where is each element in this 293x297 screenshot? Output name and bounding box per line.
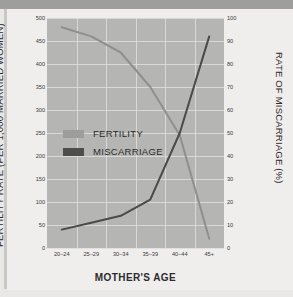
y-axis-right-tick-label: 80 [227, 61, 249, 67]
y-axis-right-tick-label: 50 [227, 130, 249, 136]
y-axis-left-tick-label: 400 [23, 61, 45, 67]
y-axis-left-tick-label: 300 [23, 107, 45, 113]
y-axis-left-tick-label: 250 [23, 130, 45, 136]
y-axis-right-tick-label: 70 [227, 84, 249, 90]
y-axis-left-tick-label: 100 [23, 199, 45, 205]
gridline-horizontal [47, 248, 224, 249]
legend-swatch-miscarriage [63, 148, 84, 156]
y-axis-right-ticks: 0102030405060708090100 [227, 18, 252, 248]
legend-item-miscarriage: MISCARRIAGE [63, 146, 163, 157]
y-axis-right-tick-label: 100 [227, 15, 249, 21]
legend-label-miscarriage: MISCARRIAGE [93, 146, 163, 157]
y-axis-right-tick-label: 0 [227, 245, 249, 251]
y-axis-right-tick-label: 10 [227, 222, 249, 228]
x-axis-ticks: 20–2425–2930–3435–3940–4445+ [47, 251, 224, 263]
y-axis-left-ticks: 050100150200250300350400450500 [20, 18, 45, 248]
y-axis-left-title: FERTILITY RATE (PER 1,000 MARRIED WOMEN) [0, 0, 5, 20]
x-axis-tick-label: 45+ [192, 251, 226, 257]
y-axis-left-tick-label: 50 [23, 222, 45, 228]
y-axis-left-tick-label: 0 [23, 245, 45, 251]
legend-label-fertility: FERTILITY [93, 128, 143, 139]
chart-legend: FERTILITY MISCARRIAGE [63, 128, 163, 164]
y-axis-left-tick-label: 150 [23, 176, 45, 182]
y-axis-right-tick-label: 40 [227, 153, 249, 159]
y-axis-right-tick-label: 20 [227, 199, 249, 205]
y-axis-left-tick-label: 200 [23, 153, 45, 159]
dual-axis-line-chart: FERTILITY RATE (PER 1,000 MARRIED WOMEN)… [0, 0, 293, 297]
legend-item-fertility: FERTILITY [63, 128, 163, 139]
y-axis-left-tick-label: 350 [23, 84, 45, 90]
legend-swatch-fertility [63, 130, 84, 138]
y-axis-left-tick-label: 500 [23, 15, 45, 21]
x-axis-title: MOTHER'S AGE [47, 272, 224, 283]
y-axis-right-tick-label: 30 [227, 176, 249, 182]
y-axis-right-tick-label: 90 [227, 38, 249, 44]
y-axis-right-title: RATE OF MISCARRIAGE (%) [274, 52, 285, 184]
y-axis-left-title-text: FERTILITY RATE (PER 1,000 MARRIED WOMEN) [0, 20, 5, 250]
y-axis-right-tick-label: 60 [227, 107, 249, 113]
y-axis-left-tick-label: 450 [23, 38, 45, 44]
